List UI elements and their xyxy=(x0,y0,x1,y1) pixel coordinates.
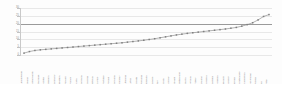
data-point-marker xyxy=(78,46,80,48)
x-tick-label: Russia xyxy=(255,77,258,84)
x-tick-label: Sweden xyxy=(48,75,51,84)
x-tick-label: Ukraine xyxy=(200,76,203,84)
x-tick-label: Cyprus xyxy=(97,76,100,84)
x-tick-label: Finland xyxy=(64,76,67,84)
x-tick-label: Greece xyxy=(151,76,154,84)
data-point-marker xyxy=(236,27,238,29)
x-tick-label: Slovenia xyxy=(81,75,84,84)
data-point-marker xyxy=(72,46,74,48)
x-tick-label: Kosovo xyxy=(228,76,231,84)
data-point-marker xyxy=(116,43,118,45)
data-point-marker xyxy=(230,27,232,29)
data-point-marker xyxy=(132,41,134,43)
x-tick-label: Moldova xyxy=(206,75,209,84)
x-tick-label: Macedonia xyxy=(244,72,247,84)
data-point-marker xyxy=(89,45,91,47)
x-tick-label: Montenegro xyxy=(238,71,241,84)
x-tick-label: Netherlands xyxy=(32,71,35,84)
data-point-marker xyxy=(29,51,31,53)
x-tick-label: Serbia xyxy=(184,77,187,84)
series-path xyxy=(24,15,269,54)
x-tick-label: Malta xyxy=(75,78,78,84)
x-tick-label: Belgium xyxy=(59,75,62,84)
data-point-marker xyxy=(257,19,259,21)
data-point-marker xyxy=(170,35,172,37)
data-point-marker xyxy=(83,45,85,47)
data-point-marker xyxy=(208,30,210,32)
data-point-marker xyxy=(127,41,129,43)
data-point-marker xyxy=(214,30,216,32)
data-point-marker xyxy=(246,24,248,26)
x-tick-label: Luxembourg xyxy=(21,71,24,84)
data-point-marker xyxy=(181,33,183,35)
x-tick-label: Croatia xyxy=(135,76,138,84)
x-tick-label: Italy xyxy=(157,80,160,84)
data-point-marker xyxy=(203,31,205,33)
data-point-marker xyxy=(56,48,58,50)
x-tick-label: Germany xyxy=(53,74,56,84)
data-point-marker xyxy=(50,48,52,50)
x-tick-label: Portugal xyxy=(102,75,105,84)
chart-figure: 051015202530 LuxembourgIrelandNetherland… xyxy=(0,0,282,84)
data-point-marker xyxy=(268,14,270,16)
x-tick-label: Georgia xyxy=(211,75,214,84)
x-tick-label: Austria xyxy=(42,77,45,84)
data-point-marker xyxy=(197,31,199,32)
data-point-marker xyxy=(154,38,156,40)
data-point-marker xyxy=(148,39,150,41)
x-tick-label: Azerbaijan xyxy=(249,73,252,84)
data-point-marker xyxy=(176,34,178,36)
data-point-marker xyxy=(94,44,96,46)
data-point-marker xyxy=(121,42,123,44)
x-tick-label: Czechia xyxy=(86,75,89,84)
y-axis-tick-labels: 051015202530 xyxy=(0,8,19,55)
data-point-marker xyxy=(45,49,47,51)
data-point-marker xyxy=(143,40,145,42)
data-point-marker xyxy=(263,16,265,17)
chart-screenshot: 051015202530 LuxembourgIrelandNetherland… xyxy=(0,0,282,84)
x-tick-label: Spain xyxy=(162,78,165,84)
plot-area xyxy=(21,8,272,55)
data-point-marker xyxy=(23,52,25,54)
x-tick-label: Turkey xyxy=(195,77,198,84)
x-tick-label: Lithuania xyxy=(124,74,127,84)
data-point-marker xyxy=(99,44,101,46)
x-tick-label: France xyxy=(70,77,73,84)
x-tick-label: Norway xyxy=(168,76,171,84)
data-point-marker xyxy=(165,36,167,38)
data-point-marker xyxy=(110,43,112,45)
x-tick-label: Ireland xyxy=(26,77,29,84)
data-point-marker xyxy=(138,40,140,42)
data-point-marker xyxy=(159,37,161,39)
data-point-marker xyxy=(192,32,194,34)
data-point-marker xyxy=(187,33,189,35)
data-point-marker xyxy=(105,43,107,45)
x-tick-label: Estonia xyxy=(91,76,94,84)
x-tick-label: Iceland xyxy=(173,76,176,84)
x-tick-label: Hungary xyxy=(119,75,122,84)
data-series-line xyxy=(21,8,272,55)
x-tick-label: Romania xyxy=(140,74,143,84)
x-tick-label: Denmark xyxy=(37,74,40,84)
data-point-marker xyxy=(61,47,63,49)
data-point-marker xyxy=(241,25,243,27)
data-point-marker xyxy=(225,28,227,30)
x-tick-label: Switzerland xyxy=(179,72,182,84)
x-tick-label: Bosnia xyxy=(233,77,236,84)
x-tick-label: Poland xyxy=(108,77,111,85)
x-tick-label: Belarus xyxy=(222,76,225,84)
x-tick-label: Albania xyxy=(189,76,192,84)
data-point-marker xyxy=(219,29,221,31)
data-point-marker xyxy=(252,22,254,24)
data-point-marker xyxy=(40,49,42,51)
x-tick-label: Latvia xyxy=(130,78,133,84)
x-tick-label: Slovakia xyxy=(113,75,116,84)
x-tick-label: EU xyxy=(260,81,263,84)
data-point-marker xyxy=(34,50,36,52)
x-tick-label: Bulgaria xyxy=(146,75,149,84)
x-tick-label: Total xyxy=(266,79,269,84)
x-axis-tick-labels: LuxembourgIrelandNetherlandsDenmarkAustr… xyxy=(21,56,272,84)
x-tick-label: Armenia xyxy=(217,75,220,84)
data-point-marker xyxy=(67,47,69,49)
